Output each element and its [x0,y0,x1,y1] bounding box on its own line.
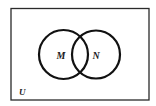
universe-label: U [19,87,26,97]
set-m-label: M [56,50,67,61]
universe-rectangle [11,9,149,101]
venn-diagram: M N U [0,0,156,106]
set-n-label: N [91,50,100,61]
